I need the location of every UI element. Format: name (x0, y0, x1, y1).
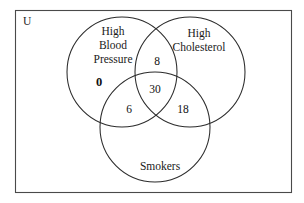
count-hbp-and-cholesterol: 8 (154, 55, 160, 67)
label-high-blood-pressure-line1: High (102, 25, 125, 38)
venn-diagram-figure: U High Blood Pressure High Cholesterol S… (0, 0, 304, 203)
universe-label: U (23, 15, 32, 27)
venn-diagram-canvas: U High Blood Pressure High Cholesterol S… (0, 0, 304, 203)
label-high-blood-pressure-line2: Blood (99, 39, 127, 51)
label-smokers: Smokers (140, 160, 181, 172)
label-high-blood-pressure-line3: Pressure (94, 53, 133, 65)
count-hbp-and-smokers: 6 (126, 103, 132, 115)
count-cholesterol-and-smokers: 18 (177, 103, 189, 115)
count-all-three: 30 (149, 83, 161, 95)
label-high-cholesterol-line2: Cholesterol (172, 41, 225, 53)
count-hbp-only: 0 (96, 75, 102, 89)
label-high-cholesterol-line1: High (188, 27, 211, 40)
